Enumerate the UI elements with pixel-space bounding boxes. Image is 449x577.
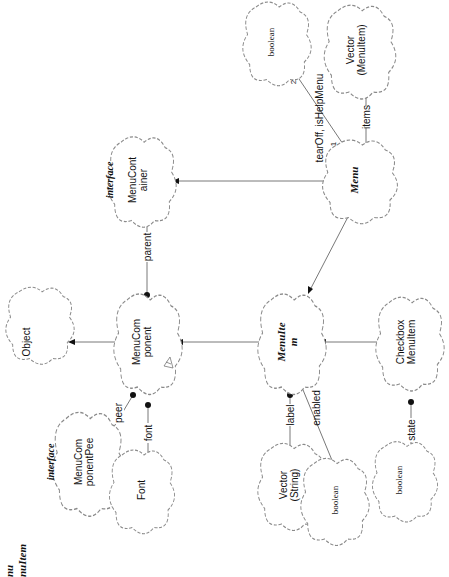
- class-checkbox-1: Checkbox: [395, 320, 406, 364]
- assoc-state: state: [406, 419, 417, 441]
- class-boolean-flags: boolean: [266, 27, 276, 56]
- aggregation-dot: [408, 399, 414, 405]
- class-peer-2: ponentPee: [84, 437, 95, 486]
- aggregation-dot: [130, 392, 136, 398]
- assoc-parent: parent: [142, 233, 153, 262]
- assoc-enabled: enabled: [311, 390, 322, 426]
- assoc-flags: tearOff, isHelpMenu: [314, 74, 325, 163]
- edge-menu-menuitem: [310, 213, 350, 290]
- class-vectormenuitem-2: (MenuItem): [356, 24, 367, 75]
- class-vectormenuitem-1: Vector: [345, 35, 356, 64]
- class-peer-1: MenuCom: [73, 439, 84, 485]
- assoc-peer: peer: [113, 402, 124, 423]
- class-menu: Menu: [348, 167, 360, 195]
- corner-title-line2: nuItem: [16, 544, 28, 577]
- class-menucomponent-2: ponent: [142, 326, 153, 357]
- class-font: Font: [136, 480, 147, 500]
- stereotype-container: interface: [104, 161, 115, 198]
- class-object: Object: [21, 327, 32, 356]
- class-vectorstring-1: Vector: [278, 470, 289, 499]
- aggregation-dot: [145, 402, 151, 408]
- assoc-font: font: [143, 424, 154, 441]
- cloud-boolean-state: [372, 442, 437, 522]
- assoc-items: items: [361, 105, 372, 129]
- class-container-1: MenuCont: [127, 157, 138, 203]
- class-menucomponent-1: MenuCom: [131, 319, 142, 365]
- assoc-label: label: [285, 404, 296, 425]
- arrow-head: [308, 286, 313, 294]
- cloud-boolean-flags: [243, 2, 311, 86]
- stereotype-peer: interface: [45, 443, 56, 480]
- class-vectorstring-2: (String): [289, 469, 300, 502]
- class-menuitem-2: m: [287, 337, 299, 346]
- class-boolean-enabled: boolean: [330, 485, 340, 514]
- class-checkbox-2: MenuItem: [406, 320, 417, 364]
- mult-far: 2: [289, 79, 298, 84]
- class-boolean-state: boolean: [394, 465, 404, 494]
- mult-near: 1: [329, 141, 338, 146]
- class-container-2: ainer: [138, 168, 149, 191]
- corner-title-line1: nu: [3, 565, 15, 577]
- class-diagram: nu nuItem Object MenuCom ponent interfac…: [0, 0, 449, 577]
- cloud-object: [6, 287, 74, 364]
- cloud-menu: [323, 140, 398, 224]
- class-menuitem-1: MenuIte: [275, 322, 287, 362]
